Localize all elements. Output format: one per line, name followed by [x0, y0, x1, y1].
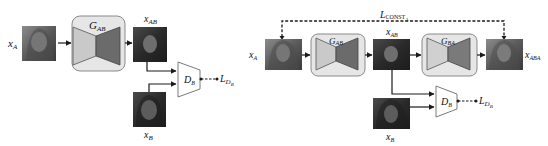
right-discriminator: DB — [436, 86, 457, 117]
right-diagram: LCONSTA xA GAB xAB — [248, 9, 541, 143]
left-diagram: xA GAB xAB — [7, 13, 234, 142]
left-real-label: xB — [143, 129, 153, 142]
right-mid-label: xAB — [385, 26, 398, 38]
left-input-photo — [22, 26, 56, 61]
left-output-label: xAB — [143, 13, 158, 26]
left-input-label: xA — [7, 37, 18, 51]
left-discriminator: DB — [178, 62, 200, 97]
right-input-photo — [265, 39, 302, 70]
right-recon-label: xABA — [524, 49, 541, 61]
right-recon-photo — [486, 39, 523, 70]
right-real-label: xB — [385, 131, 394, 143]
right-input-label: xA — [248, 49, 257, 61]
right-loss-label: LDB — [478, 95, 493, 109]
gan-diagram: xA GAB xAB — [0, 0, 548, 146]
arrow — [149, 84, 176, 92]
arrow — [147, 62, 176, 71]
right-generator-ba: GBA — [422, 34, 477, 76]
const-loss-label: LCONSTA — [379, 9, 409, 22]
right-real-photo — [373, 98, 410, 129]
left-loss-label: LDB — [219, 73, 234, 87]
left-generator-ab: GAB — [72, 16, 125, 71]
left-output-photo — [133, 27, 167, 62]
right-generator-ab: GAB — [311, 34, 365, 76]
right-mid-photo — [373, 39, 410, 70]
left-real-photo — [133, 92, 166, 127]
